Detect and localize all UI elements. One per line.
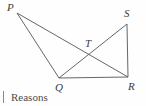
vertex-label-q: Q bbox=[55, 82, 63, 93]
segment-PQ bbox=[17, 13, 59, 78]
segment-QR bbox=[59, 77, 128, 78]
vertex-label-s: S bbox=[124, 8, 130, 19]
vertex-label-p: P bbox=[7, 2, 14, 13]
geometry-figure-screenshot: P S T Q R Reasons bbox=[0, 0, 146, 106]
vertex-label-r: R bbox=[128, 81, 135, 92]
caption-label: Reasons bbox=[11, 91, 48, 104]
caption-divider-bar bbox=[3, 91, 4, 103]
segment-QS bbox=[59, 24, 127, 78]
vertex-label-t: T bbox=[85, 38, 91, 49]
segment-SR bbox=[127, 24, 128, 77]
